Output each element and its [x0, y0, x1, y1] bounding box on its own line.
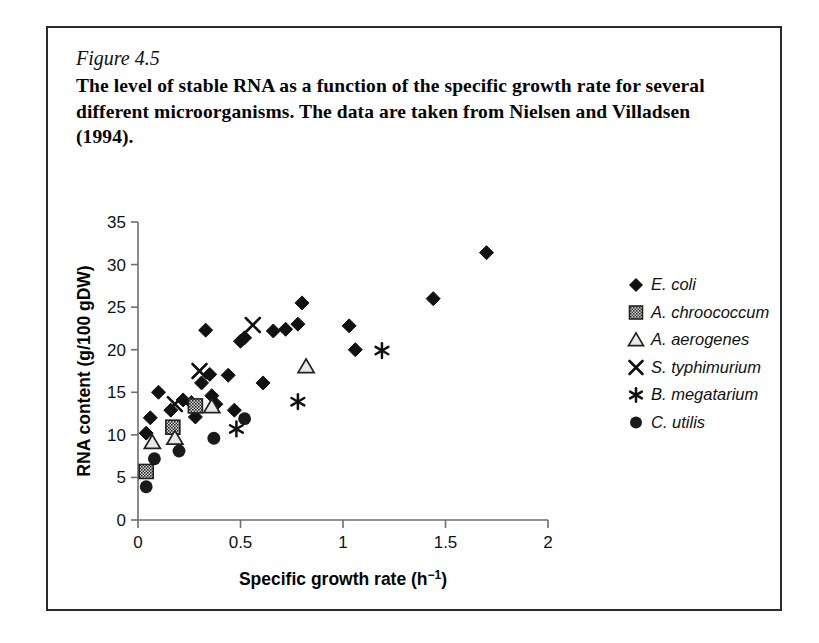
- x-tick-label: 1: [338, 533, 347, 552]
- x-tick-label: 2: [543, 533, 552, 552]
- data-point: [348, 343, 362, 357]
- data-point: [193, 364, 207, 378]
- data-point: [173, 445, 186, 458]
- x-tick-label: 0.5: [229, 533, 253, 552]
- data-point: [188, 399, 202, 413]
- y-axis-tick-labels: 05101520253035: [107, 213, 126, 530]
- data-point: [246, 318, 260, 332]
- data-point: [480, 246, 494, 260]
- legend-label: E. coli: [651, 275, 697, 293]
- data-point: [148, 452, 161, 465]
- legend-marker-open-triangle: [629, 333, 644, 346]
- data-point: [298, 359, 314, 373]
- series-b-megatarium: [230, 343, 388, 436]
- chart-svg: 05101520253035 00.511.52 RNA content (g/…: [48, 28, 784, 613]
- data-point: [140, 480, 153, 493]
- legend-item: A. chroococcum: [630, 303, 770, 321]
- legend-marker-filled-circle: [630, 417, 642, 429]
- y-tick-label: 30: [107, 256, 126, 275]
- y-axis-title: RNA content (g/100 gDW): [74, 265, 94, 476]
- legend-label: A. aerogenes: [650, 330, 749, 348]
- legend-item: C. utilis: [630, 413, 705, 431]
- y-tick-label: 5: [117, 468, 126, 487]
- legend-marker-filled-diamond: [630, 279, 643, 292]
- legend-label: C. utilis: [651, 413, 705, 431]
- data-point: [238, 412, 251, 425]
- data-point: [139, 464, 153, 478]
- x-axis-ticks: [138, 520, 548, 528]
- legend-marker-asterisk: [630, 388, 642, 402]
- data-point: [376, 343, 389, 358]
- x-axis-tick-labels: 00.511.52: [133, 533, 552, 552]
- y-tick-label: 25: [107, 298, 126, 317]
- legend-label: B. megatarium: [651, 385, 758, 403]
- data-point: [256, 376, 270, 390]
- legend-marker-hatched-square: [630, 306, 643, 319]
- data-point: [221, 368, 235, 382]
- axes: 05101520253035 00.511.52: [107, 213, 553, 552]
- data-point: [199, 323, 213, 337]
- data-point: [207, 432, 220, 445]
- legend-item: B. megatarium: [630, 385, 758, 403]
- x-tick-label: 0: [133, 533, 142, 552]
- x-axis-title: Specific growth rate (h−1): [239, 568, 447, 589]
- data-point: [292, 394, 305, 409]
- legend-item: A. aerogenes: [629, 330, 750, 348]
- data-series-group: [139, 246, 493, 494]
- data-point: [295, 296, 309, 310]
- data-point: [143, 411, 157, 425]
- data-point: [152, 385, 166, 399]
- y-axis-ticks: [131, 222, 138, 520]
- legend-label: A. chroococcum: [650, 303, 769, 321]
- data-point: [266, 324, 280, 338]
- figure-container: Figure 4.5 The level of stable RNA as a …: [46, 26, 782, 611]
- chart-legend: E. coliA. chroococcumA. aerogenesS. typh…: [629, 275, 770, 431]
- data-point: [342, 319, 356, 333]
- y-tick-label: 15: [107, 383, 126, 402]
- scatter-plot: 05101520253035 00.511.52 RNA content (g/…: [48, 28, 784, 613]
- x-tick-label: 1.5: [434, 533, 458, 552]
- legend-label: S. typhimurium: [651, 358, 761, 376]
- legend-marker-cross-x: [630, 361, 643, 374]
- y-tick-label: 35: [107, 213, 126, 232]
- data-point: [227, 403, 241, 417]
- y-tick-label: 10: [107, 426, 126, 445]
- data-point: [166, 420, 180, 434]
- legend-item: S. typhimurium: [630, 358, 762, 376]
- legend-item: E. coli: [630, 275, 698, 293]
- y-tick-label: 0: [117, 511, 126, 530]
- y-tick-label: 20: [107, 341, 126, 360]
- data-point: [426, 292, 440, 306]
